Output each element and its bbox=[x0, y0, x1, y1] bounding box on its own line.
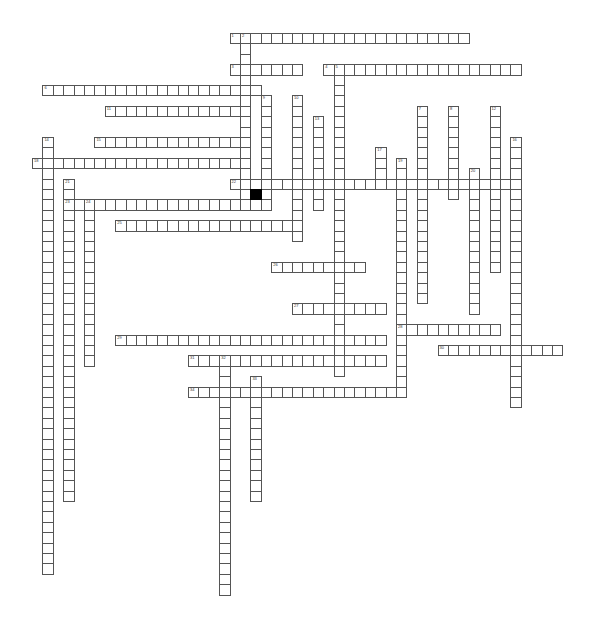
clue-number: 2 bbox=[242, 34, 244, 38]
crossword-cell[interactable] bbox=[250, 199, 261, 210]
crossword-cell[interactable] bbox=[292, 231, 303, 242]
crossword-cell[interactable] bbox=[469, 303, 480, 314]
clue-number: 22 bbox=[232, 180, 236, 184]
clue-number: 29 bbox=[117, 336, 121, 340]
crossword-cell[interactable] bbox=[250, 491, 261, 502]
crossword-cell[interactable] bbox=[230, 158, 241, 169]
crossword-cell[interactable]: 3 bbox=[230, 64, 241, 75]
crossword-cell[interactable] bbox=[261, 199, 272, 210]
clue-number: 34 bbox=[190, 388, 194, 392]
clue-number: 17 bbox=[377, 148, 381, 152]
clue-number: 30 bbox=[440, 346, 444, 350]
crossword-cell[interactable] bbox=[406, 179, 417, 190]
crossword-cell[interactable] bbox=[479, 179, 490, 190]
crossword-cell[interactable] bbox=[417, 293, 428, 304]
crossword-cell[interactable] bbox=[282, 220, 293, 231]
crossword-cell[interactable]: 22 bbox=[230, 179, 241, 190]
clue-number: 25 bbox=[117, 221, 121, 225]
clue-number: 6 bbox=[44, 86, 46, 90]
clue-number: 19 bbox=[398, 159, 402, 163]
crossword-cell[interactable] bbox=[323, 335, 334, 346]
crossword-cell[interactable] bbox=[323, 355, 334, 366]
clue-number: 11 bbox=[107, 107, 111, 111]
clue-number: 8 bbox=[450, 107, 452, 111]
crossword-cell[interactable] bbox=[510, 64, 521, 75]
crossword-cell[interactable] bbox=[230, 199, 241, 210]
crossword-cell[interactable] bbox=[354, 262, 365, 273]
crossword-cell[interactable] bbox=[375, 303, 386, 314]
clue-number: 15 bbox=[96, 138, 100, 142]
clue-number: 18 bbox=[34, 159, 38, 163]
clue-number: 20 bbox=[471, 169, 475, 173]
crossword-cell[interactable] bbox=[334, 366, 345, 377]
clue-number: 16 bbox=[512, 138, 516, 142]
clue-number: 12 bbox=[492, 107, 496, 111]
clue-number: 28 bbox=[398, 325, 402, 329]
clue-number: 9 bbox=[263, 96, 265, 100]
crossword-cell[interactable] bbox=[490, 262, 501, 273]
crossword-cell[interactable] bbox=[490, 324, 501, 335]
crossword-cell[interactable] bbox=[438, 179, 449, 190]
crossword-cell[interactable] bbox=[292, 64, 303, 75]
clue-number: 1 bbox=[232, 34, 234, 38]
crossword-cell[interactable] bbox=[386, 387, 397, 398]
clue-number: 33 bbox=[252, 377, 256, 381]
crossword-cell[interactable] bbox=[63, 491, 74, 502]
crossword-cell[interactable] bbox=[458, 179, 469, 190]
clue-number: 7 bbox=[419, 107, 421, 111]
crossword-cell[interactable] bbox=[375, 355, 386, 366]
clue-number: 21 bbox=[65, 180, 69, 184]
crossword-cell[interactable] bbox=[365, 179, 376, 190]
clue-number: 5 bbox=[336, 65, 338, 69]
crossword-cell[interactable] bbox=[230, 85, 241, 96]
clue-number: 32 bbox=[221, 356, 225, 360]
crossword-board: 1234567891011121314151617181928202123222… bbox=[0, 0, 595, 621]
crossword-cell[interactable] bbox=[552, 345, 563, 356]
clue-number: 4 bbox=[325, 65, 327, 69]
crossword-cell[interactable] bbox=[230, 137, 241, 148]
crossword-cell[interactable] bbox=[42, 563, 53, 574]
crossword-cell[interactable] bbox=[500, 179, 511, 190]
clue-number: 23 bbox=[65, 200, 69, 204]
clue-number: 3 bbox=[232, 65, 234, 69]
crossword-cell[interactable] bbox=[323, 262, 334, 273]
clue-number: 31 bbox=[190, 356, 194, 360]
crossword-cell[interactable] bbox=[458, 33, 469, 44]
clue-number: 13 bbox=[315, 117, 319, 121]
crossword-cell[interactable] bbox=[375, 335, 386, 346]
clue-number: 10 bbox=[294, 96, 298, 100]
crossword-cell[interactable] bbox=[448, 189, 459, 200]
crossword-cell[interactable] bbox=[396, 387, 407, 398]
crossword-cell[interactable] bbox=[219, 584, 230, 595]
clue-number: 27 bbox=[294, 304, 298, 308]
crossword-cell[interactable] bbox=[84, 355, 95, 366]
crossword-cell[interactable] bbox=[302, 179, 313, 190]
black-square bbox=[250, 189, 261, 200]
crossword-cell[interactable] bbox=[282, 179, 293, 190]
clue-number: 24 bbox=[86, 200, 90, 204]
clue-number: 14 bbox=[44, 138, 48, 142]
crossword-cell[interactable] bbox=[323, 303, 334, 314]
crossword-cell[interactable] bbox=[209, 387, 220, 398]
crossword-cell[interactable] bbox=[313, 199, 324, 210]
crossword-cell[interactable] bbox=[500, 345, 511, 356]
clue-number: 26 bbox=[273, 263, 277, 267]
crossword-cell[interactable] bbox=[230, 106, 241, 117]
crossword-cell[interactable] bbox=[510, 397, 521, 408]
crossword-cell[interactable] bbox=[240, 387, 251, 398]
crossword-cell[interactable] bbox=[323, 179, 334, 190]
crossword-cell[interactable]: 18 bbox=[32, 158, 43, 169]
crossword-cell[interactable] bbox=[386, 179, 397, 190]
